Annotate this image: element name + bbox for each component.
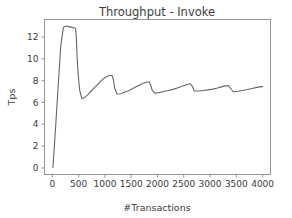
y-tick-label: 2: [33, 141, 39, 151]
x-tick-label: 1500: [120, 179, 143, 189]
throughput-invoke-line-chart: Throughput - Invoke 024681012 0500100015…: [0, 0, 292, 218]
x-tick-label: 1000: [93, 179, 116, 189]
x-tick-label: 2000: [146, 179, 169, 189]
x-axis-label: #Transactions: [123, 202, 190, 213]
y-tick-label: 12: [27, 32, 38, 42]
chart-figure: Throughput - Invoke 024681012 0500100015…: [0, 0, 292, 218]
x-tick-label: 500: [70, 179, 87, 189]
y-axis-label: Tps: [6, 89, 17, 107]
y-tick-label: 10: [27, 54, 39, 64]
y-tick-label: 4: [33, 119, 39, 129]
y-tick-label: 6: [33, 98, 39, 108]
y-tick-label: 8: [33, 76, 39, 86]
y-tick-label: 0: [33, 163, 39, 173]
x-tick-label: 4000: [251, 179, 274, 189]
x-tick-label: 3000: [199, 179, 222, 189]
chart-title: Throughput - Invoke: [98, 5, 215, 19]
x-tick-label: 3500: [225, 179, 248, 189]
x-tick-label: 0: [50, 179, 56, 189]
x-tick-label: 2500: [172, 179, 195, 189]
